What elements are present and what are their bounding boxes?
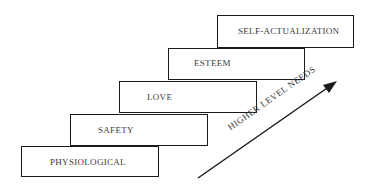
arrow-up-right-icon <box>0 0 368 189</box>
